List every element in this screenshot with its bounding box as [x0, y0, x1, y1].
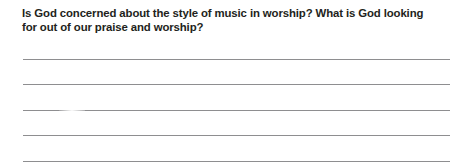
answer-rule-3[interactable]	[23, 110, 450, 111]
answer-rule-4[interactable]	[23, 135, 450, 136]
answer-rule-2[interactable]	[23, 84, 450, 85]
answer-lines-group	[0, 0, 466, 166]
answer-rule-1[interactable]	[23, 59, 450, 60]
worksheet-page: Is God concerned about the style of musi…	[0, 0, 466, 166]
answer-rule-5[interactable]	[23, 161, 450, 162]
